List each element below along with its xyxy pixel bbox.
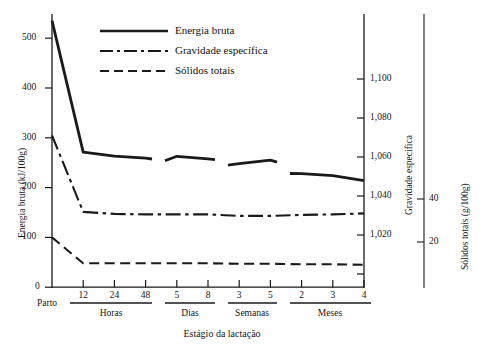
- x-label-4-meses: 4: [354, 290, 374, 300]
- x-group-label-meses: Meses: [300, 308, 360, 318]
- x-group-label-dias: Dias: [160, 308, 220, 318]
- right-axis: [357, 14, 364, 288]
- series-solidos-totais: [52, 237, 364, 264]
- left-axis-title: Energia bruta (kJ/100g): [17, 148, 27, 238]
- right-axis-label-1040: 1,040: [370, 190, 391, 200]
- left-axis-label-500: 500: [22, 32, 36, 42]
- legend-label-solidos-totais: Sólidos totais: [175, 64, 235, 76]
- x-axis: [52, 280, 364, 287]
- x-label-3-meses: 3: [323, 290, 343, 300]
- far-right-axis-title: Sólidos totais (g/100g): [460, 183, 470, 270]
- right-axis-label-1020: 1,020: [370, 229, 391, 239]
- right-axis-label-1100: 1,100: [370, 73, 391, 83]
- far-right-axis-label-40: 40: [429, 193, 439, 203]
- x-label-3-semanas: 3: [229, 290, 249, 300]
- x-label-48: 48: [136, 290, 156, 300]
- x-label-2-meses: 2: [292, 290, 312, 300]
- x-group-label-semanas: Semanas: [222, 308, 282, 318]
- legend-label-energia-bruta: Energia bruta: [175, 24, 234, 36]
- legend-label-gravidade-especifica: Gravidade específica: [175, 44, 268, 56]
- x-label-8-dias: 8: [198, 290, 218, 300]
- far-right-axis-label-20: 20: [429, 236, 439, 246]
- x-label-5-dias: 5: [167, 290, 187, 300]
- right-axis-title: Gravidade específica: [404, 135, 414, 215]
- x-origin-label-parto: Parto: [37, 298, 57, 308]
- legend-swatches: [100, 31, 168, 71]
- left-axis-label-300: 300: [22, 132, 36, 142]
- far-right-axis: [417, 14, 424, 288]
- chart-figure: 500 400 300 200 100 0 Energia bruta (kJ/…: [0, 0, 488, 356]
- right-axis-label-1060: 1,060: [370, 151, 391, 161]
- x-label-5-semanas: 5: [260, 290, 280, 300]
- left-axis-label-0: 0: [35, 281, 40, 291]
- left-axis: [45, 14, 52, 288]
- x-axis-title: Estágio da lactação: [142, 328, 302, 339]
- left-axis-label-400: 400: [22, 82, 36, 92]
- right-axis-label-1080: 1,080: [370, 112, 391, 122]
- x-group-label-horas: Horas: [81, 308, 141, 318]
- x-label-12: 12: [73, 290, 93, 300]
- x-label-24: 24: [104, 290, 124, 300]
